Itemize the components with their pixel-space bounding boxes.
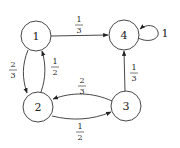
node-2: 2	[23, 92, 53, 122]
edge-3-4-denominator: 3	[131, 74, 136, 83]
node-3: 3	[111, 91, 141, 121]
edge-1-4-denominator: 3	[76, 26, 81, 35]
edge-3-4-numerator: 1	[131, 63, 136, 72]
node-2-label: 2	[35, 101, 42, 114]
edge-2-3-denominator: 2	[77, 133, 82, 142]
edge-3-2-denominator: 3	[79, 87, 84, 96]
edge-1-4: 1 3	[51, 15, 108, 36]
edge-2-1: 1 2	[41, 51, 59, 92]
markov-diagram: 1 3 2 3 1 2 2 3 1 2 1 3 1 1	[0, 0, 180, 148]
edge-4-4-label: 1	[162, 27, 169, 40]
edge-1-2: 2 3	[9, 50, 28, 93]
edge-1-4-numerator: 1	[76, 15, 81, 24]
edge-2-3-numerator: 1	[77, 122, 82, 131]
edge-1-2-denominator: 3	[10, 71, 15, 80]
edge-2-1-numerator: 1	[52, 57, 57, 66]
edge-3-4: 1 3	[124, 51, 138, 91]
node-4: 4	[109, 20, 139, 50]
edge-4-4-self-loop: 1	[138, 26, 169, 41]
node-1: 1	[21, 21, 51, 51]
node-1-label: 1	[33, 30, 40, 43]
edge-3-2-numerator: 2	[79, 76, 84, 85]
node-3-label: 3	[123, 100, 130, 113]
edge-2-1-denominator: 2	[52, 68, 57, 77]
node-4-label: 4	[121, 29, 128, 42]
edge-1-2-numerator: 2	[10, 60, 15, 69]
edge-3-2: 2 3	[53, 76, 112, 101]
edge-2-3: 1 2	[52, 112, 111, 142]
